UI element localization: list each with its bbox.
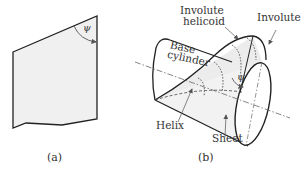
label-sheet: Sheet — [212, 133, 243, 144]
label-involute: Involute — [257, 12, 301, 23]
leader-involute — [269, 30, 276, 44]
caption-b: (b) — [198, 152, 214, 163]
label-involute-helicoid-2: helicoid — [183, 16, 225, 27]
angle-psi-label-a: ψ — [83, 22, 91, 33]
caption-a: (a) — [47, 152, 62, 163]
label-helix: Helix — [156, 120, 184, 131]
angle-psi-label-b: ψ — [237, 71, 245, 82]
figure-canvas — [0, 0, 302, 175]
leader-involute-helicoid — [225, 27, 238, 39]
